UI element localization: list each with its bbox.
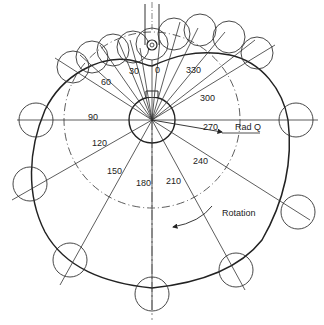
svg-text:0: 0 [155,65,160,75]
svg-text:90: 90 [88,112,98,122]
svg-text:240: 240 [193,156,208,166]
svg-text:300: 300 [200,93,215,103]
radial-lines [12,22,318,310]
svg-text:180: 180 [136,178,151,188]
follower-pin [147,40,157,50]
svg-text:210: 210 [166,176,181,186]
svg-text:60: 60 [101,77,111,87]
roller-circles [13,14,315,311]
svg-text:150: 150 [107,166,122,176]
svg-text:30: 30 [129,66,139,76]
caption-cutoff [0,318,324,325]
cam-diagram: 0 30 60 90 120 150 180 210 240 270 300 3… [0,0,324,325]
svg-text:330: 330 [186,65,201,75]
svg-text:Rad Q: Rad Q [235,122,261,132]
svg-text:Rotation: Rotation [222,208,256,218]
cam-profile [31,53,289,288]
rotation-annotation: Rotation [173,206,256,227]
svg-text:120: 120 [92,138,107,148]
